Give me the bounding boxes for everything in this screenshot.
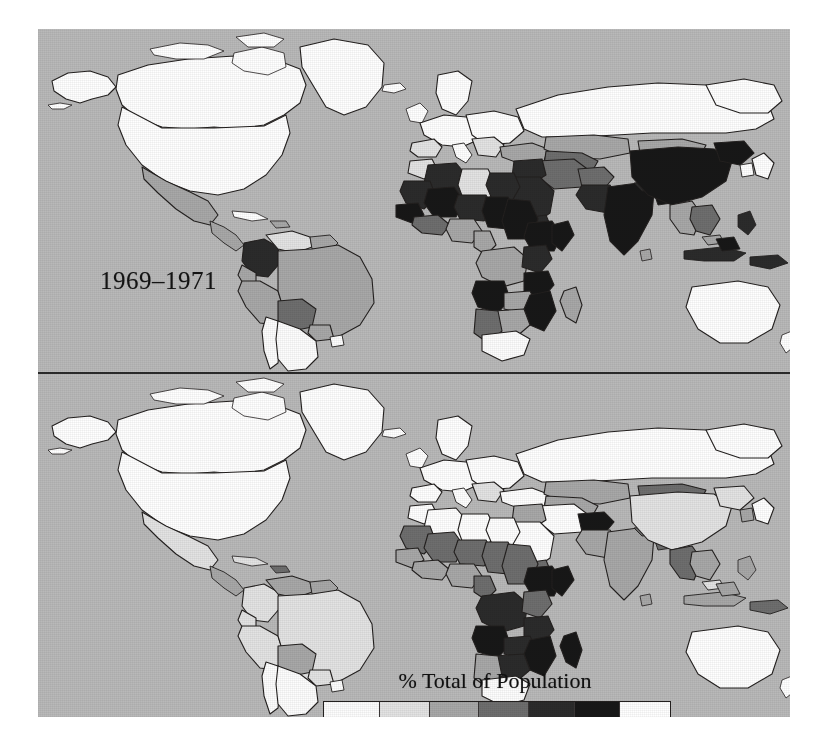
- map-panel-2000-2003[interactable]: 2000–2003 Undernourished Population: [38, 374, 790, 717]
- country-sri-lanka: [640, 594, 652, 606]
- world-map-2000-2003[interactable]: [38, 374, 790, 717]
- legend-swatch-50plus[interactable]: [575, 702, 621, 717]
- country-iceland: [382, 83, 406, 93]
- hispaniola: [270, 566, 290, 573]
- legend-color-bar[interactable]: [323, 701, 671, 717]
- legend-swatch-5-15[interactable]: [380, 702, 430, 717]
- map-legend: % Total of Population < 5 15 25 35 50 > …: [285, 668, 705, 717]
- country-kenya-uganda: [522, 590, 552, 618]
- korea: [740, 508, 754, 522]
- country-japan: [752, 498, 774, 524]
- iberia: [410, 484, 442, 502]
- country-australia: [686, 281, 780, 343]
- arctic-islands: [150, 388, 224, 404]
- china-northeast: [714, 486, 754, 510]
- country-new-zealand: [780, 331, 790, 353]
- country-alaska: [52, 71, 116, 103]
- legend-swatch-15-25[interactable]: [430, 702, 480, 717]
- new-guinea: [750, 255, 788, 269]
- country-new-zealand: [780, 676, 790, 698]
- central-america: [210, 221, 244, 251]
- ellesmere: [236, 378, 284, 392]
- aleutians: [48, 103, 72, 109]
- china-northeast: [714, 141, 754, 165]
- map-panel-1969-1971[interactable]: 1969–1971: [38, 29, 790, 372]
- west-africa-coast: [412, 215, 450, 235]
- country-alaska: [52, 416, 116, 448]
- new-guinea: [750, 600, 788, 614]
- map-plate: 1969–1971: [38, 29, 790, 717]
- west-africa-coast: [412, 560, 450, 580]
- legend-swatch-lt5[interactable]: [324, 702, 380, 717]
- legend-title: % Total of Population: [285, 668, 705, 694]
- korea: [740, 163, 754, 177]
- uk-ireland: [406, 103, 428, 123]
- italy: [452, 143, 472, 163]
- country-philippines: [738, 211, 756, 235]
- uk-ireland: [406, 448, 428, 468]
- country-greenland: [300, 39, 384, 115]
- cuba: [232, 211, 268, 221]
- country-philippines: [738, 556, 756, 580]
- ellesmere: [236, 33, 284, 47]
- country-greenland: [300, 384, 384, 460]
- country-peru: [238, 626, 284, 670]
- italy: [452, 488, 472, 508]
- country-japan: [752, 153, 774, 179]
- country-sri-lanka: [640, 249, 652, 261]
- legend-swatch-35-50[interactable]: [529, 702, 575, 717]
- arctic-islands: [150, 43, 224, 59]
- world-map-1969-1971[interactable]: [38, 29, 790, 372]
- aleutians: [48, 448, 72, 454]
- country-peru: [238, 281, 284, 325]
- cuba: [232, 556, 268, 566]
- legend-swatch-25-35[interactable]: [479, 702, 529, 717]
- country-madagascar: [560, 287, 582, 323]
- scandinavia: [436, 71, 472, 115]
- country-kenya-uganda: [522, 245, 552, 273]
- country-uruguay: [330, 335, 344, 347]
- country-madagascar: [560, 632, 582, 668]
- central-america: [210, 566, 244, 596]
- figure-root: 1969–1971: [0, 0, 827, 745]
- hispaniola: [270, 221, 290, 228]
- country-south-africa: [482, 331, 530, 361]
- country-iceland: [382, 428, 406, 438]
- panel-label-1969-1971: 1969–1971: [100, 267, 217, 295]
- iberia: [410, 139, 442, 157]
- scandinavia: [436, 416, 472, 460]
- legend-swatch-no-data[interactable]: [620, 702, 669, 717]
